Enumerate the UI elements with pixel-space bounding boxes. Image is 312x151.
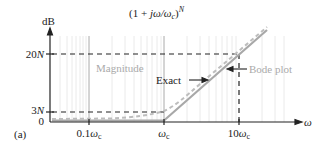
y-axis-label: dB: [42, 15, 55, 27]
x-axis-arrow-icon: [295, 120, 302, 125]
bode-plot-label: Bode plot: [249, 63, 292, 75]
panel-label: (a): [14, 128, 27, 141]
bode-arrowhead-icon: [227, 67, 233, 72]
y-tick-20N: 20N: [26, 48, 45, 60]
exact-label: Exact: [156, 74, 181, 86]
x-tick-0.1wc: 0.1ωc: [76, 127, 102, 141]
exact-curve: [52, 27, 267, 119]
x-tick-wc: ωc: [158, 127, 170, 141]
y-tick-0: 0: [39, 115, 45, 127]
decade-lines: [89, 36, 164, 122]
figure-title: (1 + jω/ωc)N: [129, 5, 185, 21]
x-axis-label: ω: [304, 116, 312, 128]
bode-diagram: (1 + jω/ωc)N dB 20N 3N 0 0.1ωc ωc 10ωc ω…: [0, 0, 312, 151]
magnitude-label: Magnitude: [96, 62, 144, 74]
y-axis-arrow-icon: [48, 28, 53, 35]
x-tick-10wc: 10ωc: [228, 127, 251, 141]
